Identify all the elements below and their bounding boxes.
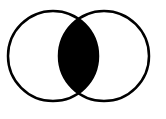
venn-diagram [0, 0, 166, 119]
